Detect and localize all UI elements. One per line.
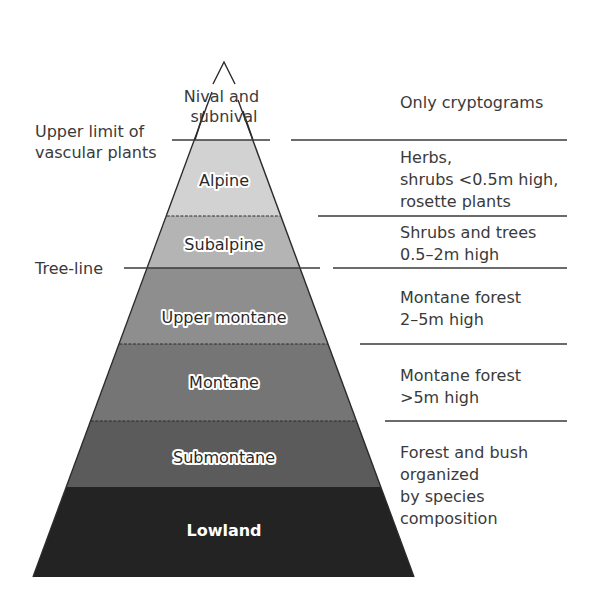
band-upper-montane [119, 268, 328, 344]
description-montane: Montane forest >5m high [400, 366, 526, 407]
tree-line-label: Tree-line [34, 259, 103, 278]
description-alpine: Herbs, shrubs <0.5m high, rosette plants [400, 148, 563, 211]
description-subalpine: Shrubs and trees 0.5–2m high [400, 223, 541, 264]
description-nival: Only cryptograms [400, 93, 543, 112]
zone-label-alpine: Alpine [199, 171, 249, 190]
zone-label-submontane: Submontane [173, 448, 275, 467]
description-submontane-lowland: Forest and bush organized by species com… [400, 443, 533, 528]
zone-label-subalpine: Subalpine [184, 235, 263, 254]
zone-label-upper-montane: Upper montane [161, 308, 286, 327]
vegetation-zone-pyramid: Nival and subnival Upper limit of vascul… [0, 0, 600, 610]
description-upper-montane: Montane forest 2–5m high [400, 288, 526, 329]
zone-label-montane: Montane [189, 373, 259, 392]
upper-limit-label: Upper limit of vascular plants [35, 122, 157, 162]
apex-label: Nival and subnival [184, 87, 264, 126]
pyramid-apex [213, 62, 235, 84]
zone-label-lowland: Lowland [186, 521, 261, 540]
